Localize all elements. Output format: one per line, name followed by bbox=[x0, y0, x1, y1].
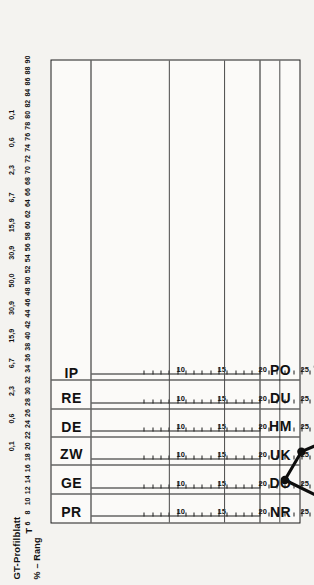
ruler-minor-tick bbox=[235, 399, 236, 403]
raw-score-tick-label: 25 bbox=[300, 478, 308, 487]
ruler-minor-tick bbox=[243, 370, 244, 374]
ruler-minor-tick bbox=[143, 512, 144, 516]
t-tick-label: 90 bbox=[23, 55, 30, 63]
t-gridline bbox=[168, 60, 169, 522]
scale-row-separator bbox=[51, 436, 90, 437]
t-tick-label: 78 bbox=[23, 121, 30, 129]
ruler-minor-tick bbox=[193, 427, 194, 431]
percent-rank-mark: 0,1 bbox=[6, 109, 15, 119]
percent-rank-mark: 30,9 bbox=[6, 245, 15, 259]
ruler-axis bbox=[91, 373, 259, 374]
t-tick-label: 12 bbox=[23, 486, 30, 494]
ruler-minor-tick bbox=[160, 427, 161, 431]
ruler-minor-tick bbox=[309, 399, 310, 403]
t-tick-label: 28 bbox=[23, 398, 30, 406]
t-tick-label: 16 bbox=[23, 464, 30, 472]
scale-row-separator bbox=[51, 408, 90, 409]
t-tick-label: 24 bbox=[23, 420, 30, 428]
t-tick-label: 56 bbox=[23, 243, 30, 251]
chart-titles: GT-Profilblatt % – Rang bbox=[10, 516, 42, 579]
right-pole-header: PRGEZWDEREIP bbox=[51, 60, 91, 522]
data-point-po[interactable] bbox=[313, 362, 314, 370]
ruler-minor-tick bbox=[160, 370, 161, 374]
ruler-minor-tick bbox=[201, 370, 202, 374]
t-tick-label: 76 bbox=[23, 132, 30, 140]
t-tick-label: 46 bbox=[23, 298, 30, 306]
raw-score-tick-label: 10 bbox=[176, 364, 184, 373]
ruler-minor-tick bbox=[152, 427, 153, 431]
t-axis-label: T bbox=[23, 528, 33, 534]
ruler-minor-tick bbox=[243, 484, 244, 488]
chart-frame: PRGEZWDEREIP 101520253035401015202530354… bbox=[50, 59, 300, 523]
t-gridline bbox=[224, 60, 225, 522]
ruler-minor-tick bbox=[160, 455, 161, 459]
ruler-minor-tick bbox=[309, 455, 310, 459]
t-tick-label: 88 bbox=[23, 66, 30, 74]
pole-right-label-ip: IP bbox=[64, 365, 78, 381]
pole-right-label-re: RE bbox=[61, 390, 81, 406]
t-tick-label: 62 bbox=[23, 210, 30, 218]
ruler-minor-tick bbox=[193, 484, 194, 488]
raw-score-tick-label: 25 bbox=[300, 393, 308, 402]
t-tick-label: 50 bbox=[23, 276, 30, 284]
scale-row-separator bbox=[260, 436, 299, 437]
percent-rank-mark: 50,0 bbox=[6, 273, 15, 287]
percent-rank-label: % – Rang bbox=[31, 516, 42, 579]
scale-row-separator bbox=[91, 464, 259, 465]
ruler-axis bbox=[91, 487, 259, 488]
ruler-minor-tick bbox=[193, 399, 194, 403]
pole-left-label-po: PO bbox=[269, 362, 290, 378]
t-tick-label: 10 bbox=[23, 497, 30, 505]
chart-stage: GT-Profilblatt % – Rang T 0,10,62,36,715… bbox=[0, 0, 314, 585]
ruler-minor-tick bbox=[235, 455, 236, 459]
percent-rank-row: 0,10,62,36,715,930,950,030,915,96,72,30,… bbox=[6, 59, 20, 523]
t-tick-label: 80 bbox=[23, 110, 30, 118]
chart-title: GT-Profilblatt bbox=[10, 516, 22, 579]
ruler-minor-tick bbox=[235, 484, 236, 488]
ruler-minor-tick bbox=[226, 427, 227, 431]
plot-area: 1015202530354010152025303540101520253035… bbox=[91, 60, 259, 522]
raw-score-ruler-du: 10152025303540 bbox=[91, 402, 259, 403]
percent-rank-mark: 2,3 bbox=[6, 164, 15, 174]
ruler-minor-tick bbox=[143, 399, 144, 403]
ruler-minor-tick bbox=[251, 455, 252, 459]
percent-rank-mark: 2,3 bbox=[6, 385, 15, 395]
ruler-minor-tick bbox=[235, 427, 236, 431]
ruler-minor-tick bbox=[201, 512, 202, 516]
t-tick-label: 38 bbox=[23, 342, 30, 350]
ruler-minor-tick bbox=[251, 399, 252, 403]
raw-score-ruler-do: 10152025303540 bbox=[91, 487, 259, 488]
t-tick-label: 44 bbox=[23, 309, 30, 317]
scale-row-separator bbox=[51, 464, 90, 465]
ruler-minor-tick bbox=[143, 427, 144, 431]
percent-rank-mark: 0,6 bbox=[6, 413, 15, 423]
ruler-minor-tick bbox=[193, 512, 194, 516]
ruler-minor-tick bbox=[210, 455, 211, 459]
ruler-minor-tick bbox=[251, 512, 252, 516]
scale-row-separator bbox=[260, 379, 299, 380]
ruler-minor-tick bbox=[210, 399, 211, 403]
ruler-minor-tick bbox=[152, 370, 153, 374]
ruler-axis bbox=[91, 458, 259, 459]
raw-score-tick-label: 25 bbox=[300, 421, 308, 430]
ruler-minor-tick bbox=[243, 399, 244, 403]
t-value-row: 6810121416182022242628303234363840424446… bbox=[23, 59, 37, 523]
raw-score-tick-label: 25 bbox=[300, 449, 308, 458]
ruler-minor-tick bbox=[152, 399, 153, 403]
ruler-minor-tick bbox=[201, 484, 202, 488]
t-tick-label: 14 bbox=[23, 475, 30, 483]
ruler-minor-tick bbox=[185, 370, 186, 374]
t-tick-label: 20 bbox=[23, 442, 30, 450]
ruler-minor-tick bbox=[226, 484, 227, 488]
ruler-minor-tick bbox=[185, 484, 186, 488]
t-tick-label: 70 bbox=[23, 166, 30, 174]
raw-score-ruler-hm: 10152025303540 bbox=[91, 430, 259, 431]
raw-score-tick-label: 10 bbox=[176, 421, 184, 430]
ruler-minor-tick bbox=[201, 427, 202, 431]
t-tick-label: 82 bbox=[23, 99, 30, 107]
scale-row-separator bbox=[91, 493, 259, 494]
t-tick-label: 26 bbox=[23, 409, 30, 417]
t-tick-label: 30 bbox=[23, 387, 30, 395]
t-tick-label: 40 bbox=[23, 331, 30, 339]
ruler-minor-tick bbox=[243, 427, 244, 431]
